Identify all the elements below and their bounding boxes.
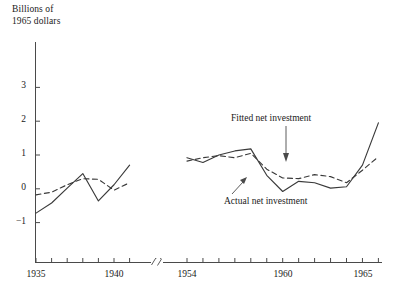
y-tick-marks <box>36 87 41 222</box>
axis-break-marker <box>151 258 163 266</box>
actual-arrow-head <box>240 177 247 184</box>
plot-area <box>0 0 396 303</box>
series-line-fitted-net-investment <box>36 179 130 195</box>
x-tick-marks <box>36 258 378 263</box>
series-line-actual-net-investment <box>187 123 378 192</box>
chart-figure: Billions of 1965 dollars 3 2 1 0 −1 1935… <box>0 0 396 303</box>
data-series-layer <box>36 123 378 213</box>
axes-group <box>36 42 383 263</box>
actual-arrow-line <box>232 182 243 194</box>
annotation-arrows <box>232 126 289 194</box>
fitted-arrow-head <box>283 153 289 162</box>
series-line-fitted-net-investment <box>187 153 378 182</box>
